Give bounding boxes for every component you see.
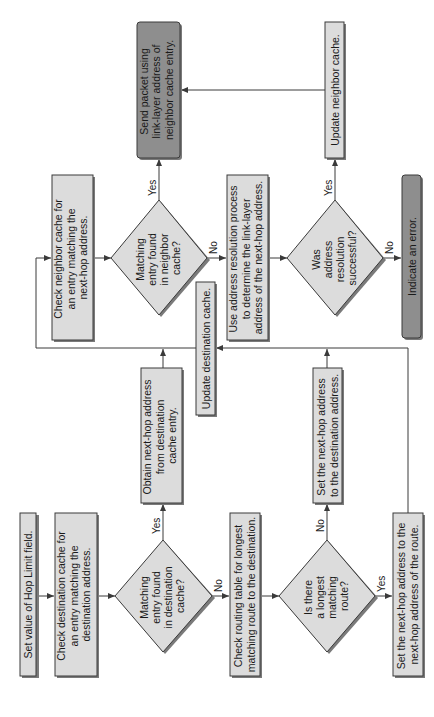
node-set-next-hop-dest: Set the next-hop address to the destinat… xyxy=(313,368,344,505)
svg-text:Use address resolution process: Use address resolution process to determ… xyxy=(227,181,264,335)
svg-text:Send packet using link-l: Send packet using link-layer address of … xyxy=(138,40,175,140)
label-dest-no: No xyxy=(213,579,224,592)
edge-route-to-update-dest xyxy=(216,348,408,513)
svg-text:Indicate an error.: Indicate an error. xyxy=(406,217,418,296)
svg-text:Set the next-hop address: Set the next-hop address to the destinat… xyxy=(315,374,340,497)
decision-neighbor-cache: Matching entry found in neighbor cache? xyxy=(111,200,210,317)
flowchart-canvas: Yes No No Yes Yes No Yes No Set value of… xyxy=(0,0,434,717)
node-address-resolution: Use address resolution process to determ… xyxy=(227,175,270,342)
node-send-packet: Send packet using link-layer address of … xyxy=(137,22,182,160)
decision-resolution-successful: Was address resolution successful? xyxy=(287,200,386,317)
decision-longest-route: Is there a longest matching route? xyxy=(279,540,378,654)
label-route-yes: Yes xyxy=(376,576,387,592)
label-neighbor-no: No xyxy=(208,241,219,254)
node-update-dest-cache: Update destination cache. xyxy=(196,282,217,417)
node-check-routing-table: Check routing table for longest matching… xyxy=(230,513,262,678)
svg-text:Set the next-hop address to th: Set the next-hop address to the next-hop… xyxy=(395,520,420,669)
node-obtain-next-hop: Obtain next-hop address from destination… xyxy=(141,368,184,505)
svg-text:Check routing table for longes: Check routing table for longest matching… xyxy=(232,517,257,672)
svg-text:Update neighbor cache.: Update neighbor cache. xyxy=(329,34,341,146)
svg-text:Check destination cache for: Check destination cache for an entry mat… xyxy=(55,528,92,661)
node-check-neighbor-cache: Check neighbor cache for an entry matchi… xyxy=(52,175,95,342)
label-resolution-yes: Yes xyxy=(323,180,334,196)
node-update-neighbor-cache: Update neighbor cache. xyxy=(325,22,346,160)
node-set-hop-limit: Set value of Hop Limit field. xyxy=(20,513,39,678)
node-check-dest-cache: Check destination cache for an entry mat… xyxy=(55,513,99,678)
svg-text:Update destination cache.: Update destination cache. xyxy=(200,288,212,409)
node-set-next-hop-route: Set the next-hop address to the next-hop… xyxy=(393,513,425,678)
label-resolution-no: No xyxy=(384,241,395,254)
node-indicate-error: Indicate an error. xyxy=(402,175,423,340)
label-neighbor-yes: Yes xyxy=(147,180,158,196)
label-dest-yes: Yes xyxy=(151,518,162,534)
decision-dest-cache: Matching entry found in destination cach… xyxy=(115,540,215,654)
svg-text:Set value of Hop Limit field.: Set value of Hop Limit field. xyxy=(22,531,34,659)
label-route-no: No xyxy=(315,519,326,532)
